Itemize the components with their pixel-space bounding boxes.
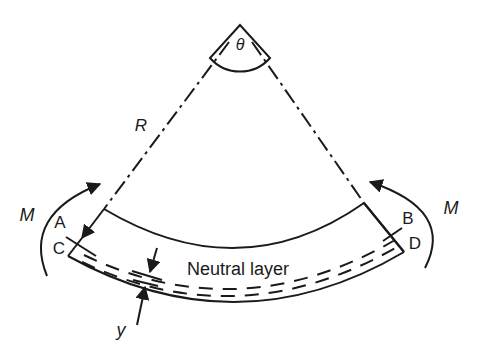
radius-arrow bbox=[82, 209, 104, 238]
beam-top-edge bbox=[104, 203, 364, 248]
beam-bending-diagram: θ R y Neutral layer M M A C B D bbox=[0, 0, 477, 351]
angle-label: θ bbox=[236, 36, 245, 53]
y-arrow-bottom bbox=[137, 287, 145, 325]
beam-right-end bbox=[364, 203, 404, 252]
y-label: y bbox=[115, 320, 127, 340]
radius-lines bbox=[82, 42, 404, 252]
right-radius-line bbox=[252, 42, 364, 203]
neutral-layer-label: Neutral layer bbox=[187, 259, 289, 279]
point-label-a: A bbox=[54, 213, 66, 232]
moment-left-arrow bbox=[41, 184, 100, 276]
point-label-d: D bbox=[409, 234, 421, 253]
y-arrow-top bbox=[150, 248, 157, 272]
moment-left-label: M bbox=[20, 205, 35, 225]
point-label-b: B bbox=[402, 209, 413, 228]
radius-label: R bbox=[135, 116, 147, 135]
point-label-c: C bbox=[53, 239, 65, 258]
curved-beam bbox=[66, 203, 404, 302]
moment-right-label: M bbox=[444, 198, 459, 218]
left-radius-line bbox=[104, 42, 229, 209]
